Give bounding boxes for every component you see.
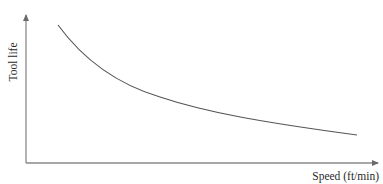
x-axis-label: Speed (ft/min) — [312, 170, 379, 183]
tool-life-diagram: Tool life Speed (ft/min) — [0, 0, 383, 184]
tool-life-curve — [58, 25, 357, 135]
y-axis-label: Tool life — [7, 42, 19, 81]
